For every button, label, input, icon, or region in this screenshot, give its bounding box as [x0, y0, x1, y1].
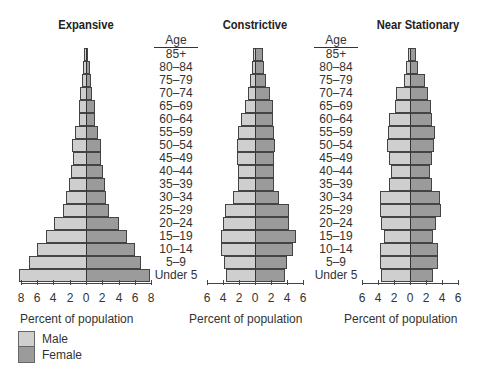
male-bar [384, 230, 410, 243]
female-bar [410, 256, 438, 269]
male-bar [241, 113, 255, 126]
x-tick [362, 280, 363, 285]
female-bar [410, 243, 438, 256]
male-bar [380, 256, 410, 269]
male-bar [37, 243, 86, 256]
male-bar [380, 243, 410, 256]
x-tick-label: 2 [63, 291, 77, 305]
female-bar [410, 152, 432, 165]
x-tick [119, 280, 120, 285]
x-tick-label: 0 [403, 291, 417, 305]
x-tick-label: 2 [95, 291, 109, 305]
legend-label-male: Male [42, 332, 68, 346]
x-tick-label: 2 [419, 291, 433, 305]
male-bar [221, 230, 255, 243]
female-bar [86, 152, 101, 165]
x-tick-label: 2 [264, 291, 278, 305]
female-bar [410, 113, 432, 126]
female-bar [255, 256, 287, 269]
female-bar [255, 126, 274, 139]
female-bar [410, 178, 432, 191]
female-bar [410, 269, 433, 282]
x-tick [223, 280, 224, 285]
age-labels-column: Age85+80–8475–7970–7465–6960–6455–5950–5… [310, 34, 362, 282]
x-tick [53, 280, 54, 285]
pyramid-title: Near Stationary [366, 17, 469, 32]
x-tick-label: 6 [296, 291, 310, 305]
male-bar [79, 113, 86, 126]
x-tick [21, 280, 22, 285]
male-bar [396, 87, 410, 100]
male-bar [391, 165, 410, 178]
female-bar [86, 269, 150, 282]
x-tick [37, 280, 38, 285]
female-bar [86, 230, 127, 243]
female-bar [255, 165, 274, 178]
female-bar [410, 87, 428, 100]
female-bar [410, 61, 418, 74]
x-tick-label: 8 [144, 291, 158, 305]
female-bar [86, 217, 119, 230]
x-tick-label: 4 [216, 291, 230, 305]
x-tick [394, 280, 395, 285]
x-tick [207, 280, 208, 285]
female-bar [255, 87, 270, 100]
female-bar [410, 139, 434, 152]
male-bar [69, 178, 86, 191]
female-swatch [18, 347, 35, 363]
legend-label-female: Female [42, 348, 82, 362]
female-bar [255, 74, 266, 87]
female-bar [410, 204, 441, 217]
female-bar [255, 178, 274, 191]
male-bar [237, 152, 255, 165]
x-tick-label: 4 [112, 291, 126, 305]
pyramid-title: Constrictive [203, 17, 306, 32]
age-label: Under 5 [150, 269, 202, 282]
female-bar [255, 100, 273, 113]
x-tick [135, 280, 136, 285]
legend: Male Female [18, 331, 82, 363]
female-bar [255, 217, 289, 230]
female-bar [255, 139, 275, 152]
x-tick-label: 6 [30, 291, 44, 305]
male-bar [79, 100, 86, 113]
age-labels-column: Age85+80–8475–7970–7465–6960–6455–5950–5… [150, 34, 202, 282]
female-bar [86, 204, 109, 217]
male-bar [248, 87, 255, 100]
female-bar [255, 230, 296, 243]
female-bar [410, 230, 433, 243]
x-tick [426, 280, 427, 285]
x-tick-label: 4 [280, 291, 294, 305]
female-bar [255, 243, 293, 256]
x-tick-label: 6 [355, 291, 369, 305]
male-bar [387, 139, 410, 152]
male-bar [46, 230, 86, 243]
male-bar [389, 178, 410, 191]
age-header: Age [154, 34, 198, 48]
male-bar [63, 204, 86, 217]
female-bar [255, 61, 264, 74]
x-tick [239, 280, 240, 285]
female-bar [86, 178, 105, 191]
x-tick [378, 280, 379, 285]
male-bar [224, 256, 255, 269]
male-bar [233, 191, 255, 204]
male-bar [380, 191, 410, 204]
male-bar [223, 217, 255, 230]
female-bar [255, 113, 273, 126]
x-tick [458, 280, 459, 285]
female-bar [255, 152, 274, 165]
female-bar [410, 191, 440, 204]
female-bar [86, 61, 90, 74]
male-bar [66, 191, 86, 204]
female-bar [410, 126, 435, 139]
x-tick [303, 280, 304, 285]
x-tick-label: 6 [200, 291, 214, 305]
x-tick-label: 2 [387, 291, 401, 305]
x-tick-label: 0 [248, 291, 262, 305]
male-bar [221, 243, 255, 256]
x-tick [287, 280, 288, 285]
male-bar [245, 100, 255, 113]
male-bar [238, 126, 255, 139]
x-tick-label: 6 [451, 291, 465, 305]
